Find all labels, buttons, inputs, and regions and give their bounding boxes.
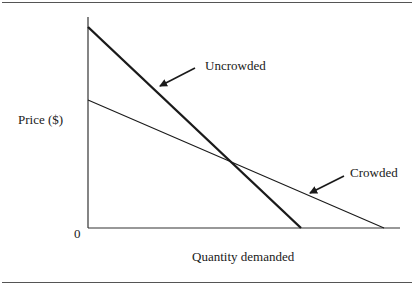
crowded-demand-line xyxy=(88,100,384,228)
crowded-label: Crowded xyxy=(350,165,398,181)
demand-chart xyxy=(0,0,418,288)
uncrowded-label: Uncrowded xyxy=(205,58,266,74)
uncrowded-demand-line xyxy=(88,27,301,228)
origin-label: 0 xyxy=(74,226,81,242)
crowded-arrow-icon xyxy=(310,176,344,193)
uncrowded-arrow-icon xyxy=(160,68,195,86)
x-axis-label: Quantity demanded xyxy=(192,249,294,265)
y-axis-label: Price ($) xyxy=(18,112,63,128)
